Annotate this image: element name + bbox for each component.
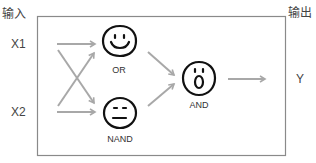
output-y-label: Y xyxy=(296,72,304,86)
input-header: 输入 xyxy=(2,4,26,21)
and-surprised-face-icon xyxy=(183,62,215,95)
output-header: 输出 xyxy=(288,3,312,20)
input-arrows xyxy=(57,44,95,112)
arrow-x2-or xyxy=(58,53,94,106)
diagram-canvas xyxy=(0,0,316,163)
gate-nand-label: NAND xyxy=(107,134,133,144)
input-x1-label: X1 xyxy=(11,37,26,51)
arrow-or-and xyxy=(148,52,174,75)
network-frame xyxy=(38,17,286,156)
hidden-arrows xyxy=(148,52,265,106)
or-smile-face-icon xyxy=(103,26,136,56)
input-x2-label: X2 xyxy=(11,105,26,119)
nand-neutral-face-icon xyxy=(104,98,136,128)
gate-or-label: OR xyxy=(112,65,126,75)
gate-and-label: AND xyxy=(189,100,208,110)
arrow-nand-and xyxy=(148,84,174,106)
arrow-x1-nand xyxy=(58,50,94,103)
